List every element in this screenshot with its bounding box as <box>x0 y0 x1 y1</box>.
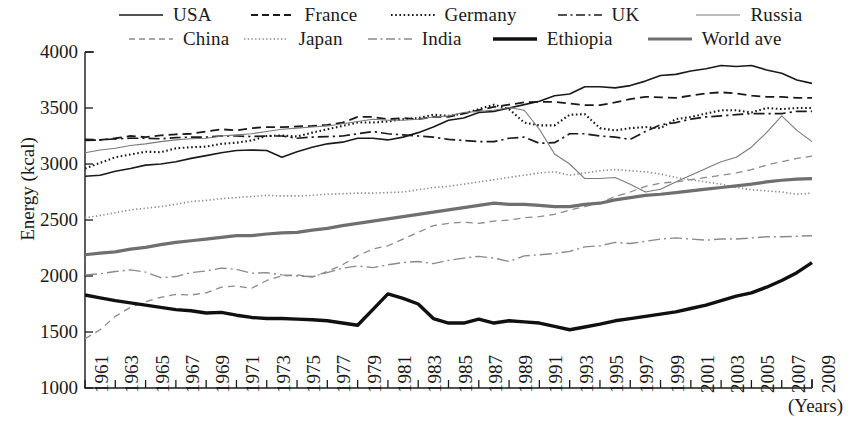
series-line-world-ave <box>85 179 812 255</box>
energy-intake-line-chart: USAFranceGermanyUKRussia ChinaJapanIndia… <box>0 0 868 441</box>
axis-frame <box>85 52 812 388</box>
series-line-usa <box>85 65 812 176</box>
data-series-group <box>85 65 812 338</box>
plot-area <box>0 0 868 441</box>
